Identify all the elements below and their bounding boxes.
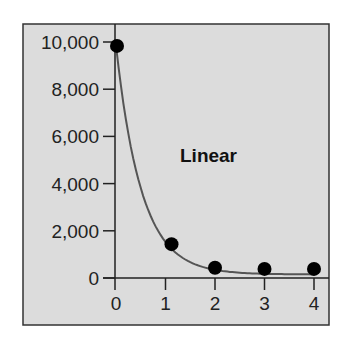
chart: 02,0004,0006,0008,00010,000 01234 Linear [0,0,351,339]
y-tick-label: 8,000 [51,79,99,100]
chart-annotation: Linear [180,145,238,166]
y-tick-label: 10,000 [41,32,99,53]
x-tick-label: 0 [111,293,122,314]
x-tick-label: 3 [259,293,270,314]
y-tick-label: 6,000 [51,126,99,147]
data-point [110,39,124,53]
x-tick-label: 4 [309,293,320,314]
y-tick-label: 2,000 [51,221,99,242]
x-tick-label: 2 [210,293,221,314]
y-tick-label: 0 [88,268,99,289]
data-point [208,261,222,275]
data-point [165,237,179,251]
data-point [258,262,272,276]
y-tick-label: 4,000 [51,174,99,195]
x-tick-label: 1 [160,293,171,314]
data-point [307,262,321,276]
